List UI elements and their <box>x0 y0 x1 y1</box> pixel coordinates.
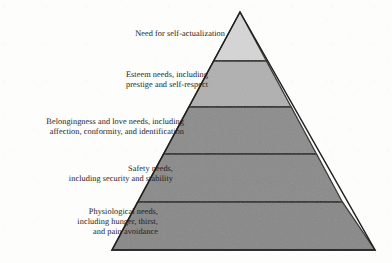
tier-label-esteem: Esteem needs, including prestige and sel… <box>20 70 208 91</box>
tier-label-self-actualization: Need for self-actualization <box>20 29 225 39</box>
pyramid-tier-belongingness <box>164 107 317 154</box>
tier-label-belongingness: Belongingness and love needs, including … <box>4 117 184 138</box>
tier-label-safety: Safety needs, including security and sta… <box>10 164 173 185</box>
tier-label-physiological: Physiological needs, including hunger, t… <box>10 207 158 238</box>
maslow-pyramid-figure: Need for self-actualization Esteem needs… <box>0 0 392 263</box>
